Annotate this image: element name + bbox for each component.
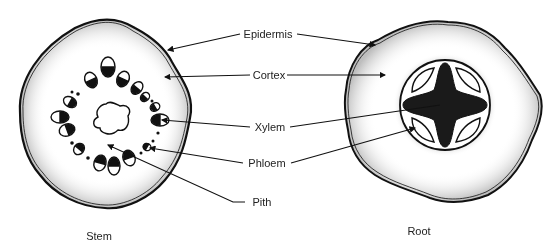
root-section: [345, 21, 542, 202]
label-xylem: Xylem: [255, 121, 286, 133]
caption-stem: Stem: [86, 230, 112, 242]
caption-root: Root: [407, 225, 430, 237]
xylem-stipple: [403, 63, 487, 147]
label-epidermis: Epidermis: [244, 28, 293, 40]
label-cortex: Cortex: [253, 69, 286, 81]
label-pith: Pith: [253, 196, 272, 208]
stem-section: [20, 19, 191, 208]
label-phloem: Phloem: [248, 157, 285, 169]
stem-root-cross-section-diagram: Epidermis Cortex Xylem Phloem Pith Stem …: [0, 0, 556, 245]
